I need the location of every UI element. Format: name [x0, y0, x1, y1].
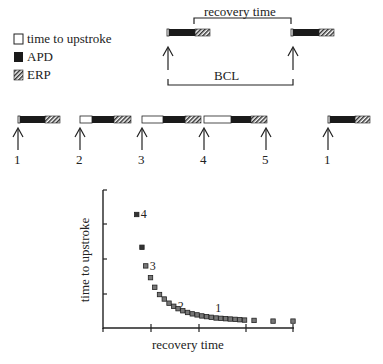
data-point	[233, 317, 237, 321]
data-point-label: 1	[215, 301, 221, 315]
data-point	[157, 292, 161, 296]
legend	[14, 34, 23, 80]
data-point	[228, 317, 232, 321]
legend-label-time-to-upstroke: time to upstroke	[27, 31, 112, 47]
stimulus-label: 3	[138, 152, 145, 168]
data-points: 4321	[135, 207, 296, 323]
data-point	[167, 301, 171, 305]
data-point	[252, 318, 256, 322]
stimulus-label: 5	[262, 152, 269, 168]
data-point	[153, 285, 157, 289]
data-point	[214, 316, 218, 320]
data-point	[238, 318, 242, 322]
data-point	[209, 315, 213, 319]
stimulus-sequence	[13, 116, 370, 150]
legend-swatch-apd	[14, 52, 23, 62]
data-point-label: 3	[150, 259, 156, 273]
data-point	[135, 212, 139, 216]
data-point	[195, 313, 199, 317]
recovery-time-label: recovery time	[204, 4, 276, 20]
legend-swatch-erp	[14, 70, 23, 80]
data-point	[204, 314, 208, 318]
figure-canvas: 4321	[0, 0, 383, 364]
data-point	[291, 319, 295, 323]
stimulus-label: 1	[324, 152, 331, 168]
legend-label-apd: APD	[27, 49, 53, 65]
schematic	[163, 18, 334, 85]
legend-label-erp: ERP	[27, 67, 51, 83]
data-point	[190, 312, 194, 316]
data-point	[242, 318, 246, 322]
data-point	[172, 304, 176, 308]
data-point	[219, 316, 223, 320]
data-point	[148, 275, 152, 279]
data-point	[140, 245, 144, 249]
stimulus-label: 4	[200, 152, 207, 168]
x-axis-label: recovery time	[152, 337, 224, 353]
y-axis-label: time to upstroke	[77, 205, 93, 315]
data-point	[200, 314, 204, 318]
stimulus-label: 2	[76, 152, 83, 168]
data-point	[271, 319, 275, 323]
scatter-chart: 4321	[103, 190, 295, 332]
data-point	[176, 306, 180, 310]
data-point	[223, 316, 227, 320]
data-point	[181, 309, 185, 313]
data-point	[162, 297, 166, 301]
data-point	[185, 310, 189, 314]
bcl-label: BCL	[214, 68, 239, 84]
data-point	[144, 264, 148, 268]
legend-swatch-time-to-upstroke	[14, 34, 23, 44]
stimulus-label: 1	[14, 152, 21, 168]
data-point-label: 4	[141, 207, 147, 221]
